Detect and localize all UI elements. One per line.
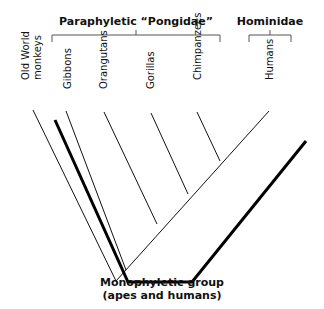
cladogram: Paraphyletic “Pongidae” Hominidae Old Wo… bbox=[0, 0, 324, 309]
taxon-chimpanzees: Chimpanzees bbox=[192, 13, 203, 80]
branch-main-diagonal-humans bbox=[116, 111, 269, 281]
taxon-humans: Humans bbox=[264, 39, 275, 80]
branch-orangutans bbox=[104, 112, 157, 224]
branch-old-world-monkeys bbox=[33, 110, 116, 281]
taxon-old-world-monkeys: Old World monkeys bbox=[20, 31, 43, 80]
taxon-orangutans: Orangutans bbox=[98, 30, 109, 89]
taxon-label-line2: monkeys bbox=[32, 35, 43, 80]
paraphyletic-pongidae-label: Paraphyletic “Pongidae” bbox=[59, 15, 213, 28]
branch-gibbons bbox=[66, 111, 126, 270]
taxon-gibbons: Gibbons bbox=[62, 48, 73, 89]
caption-line1: Monophyletic group bbox=[100, 276, 224, 289]
monophyletic-group-outline bbox=[55, 120, 306, 282]
taxon-label-line1: Old World bbox=[20, 31, 31, 80]
branch-chimpanzees bbox=[197, 112, 220, 161]
hominidae-label: Hominidae bbox=[237, 15, 303, 28]
branch-gorillas bbox=[151, 113, 188, 194]
caption-line2: (apes and humans) bbox=[102, 289, 221, 302]
taxon-gorillas: Gorillas bbox=[145, 51, 156, 89]
